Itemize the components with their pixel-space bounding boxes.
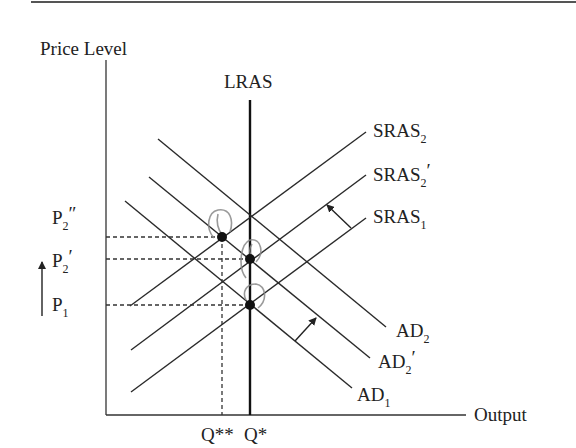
p2pp-label: P2″ bbox=[52, 203, 77, 233]
sras2-label: SRAS2 bbox=[373, 120, 427, 146]
equilibrium-point-p1 bbox=[245, 300, 255, 310]
ad1-label: AD1 bbox=[357, 384, 390, 410]
q-star-label: Q* bbox=[244, 424, 267, 445]
p1-label: P1 bbox=[52, 294, 69, 320]
ad2-label: AD2 bbox=[396, 320, 429, 346]
sras2-curve bbox=[130, 132, 366, 306]
ad1-curve bbox=[125, 201, 352, 388]
p2p-label: P2′ bbox=[52, 246, 73, 276]
equilibrium-point-p2pp bbox=[217, 232, 227, 242]
sras-shift-arrow bbox=[327, 205, 351, 228]
x-axis-label: Output bbox=[474, 404, 528, 425]
ad2-curve bbox=[158, 139, 386, 327]
sras2-prime-label: SRAS2′ bbox=[373, 160, 431, 190]
pencil-circle-1-inner bbox=[217, 214, 222, 234]
ad2-prime-label: AD2′ bbox=[378, 347, 416, 377]
ad-shift-arrow bbox=[295, 318, 316, 341]
equilibrium-point-p2p bbox=[245, 254, 255, 264]
sras1-label: SRAS1 bbox=[373, 206, 427, 232]
ad-as-diagram: Price Level Output LRAS P2″ P2′ P1 Q** Q… bbox=[0, 0, 576, 448]
q-star-star-label: Q** bbox=[201, 424, 234, 445]
y-axis-label: Price Level bbox=[40, 38, 127, 59]
lras-label: LRAS bbox=[224, 71, 273, 92]
